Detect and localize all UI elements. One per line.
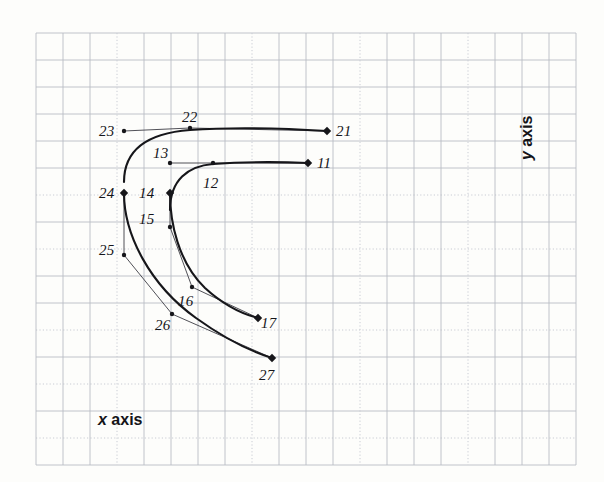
control-point-marker-diamond xyxy=(323,127,331,135)
control-point-label-21: 21 xyxy=(336,124,351,139)
x-axis-label-variable: x xyxy=(98,411,107,428)
spline-figure: 2322211312112414152516261727 x axis y ax… xyxy=(0,0,604,482)
control-point-label-23: 23 xyxy=(99,124,114,139)
x-axis-label-suffix: axis xyxy=(107,411,143,428)
control-point-marker-dot xyxy=(168,161,172,165)
control-point-label-14: 14 xyxy=(139,186,154,201)
control-point-label-17: 17 xyxy=(261,316,276,331)
control-point-marker-dot xyxy=(168,225,172,229)
control-point-label-15: 15 xyxy=(139,212,154,227)
spline-curve xyxy=(170,162,308,210)
grid-layer xyxy=(36,33,576,465)
control-point-marker-dot xyxy=(122,253,126,257)
y-axis-label-suffix: axis xyxy=(518,116,535,152)
control-point-marker-dot xyxy=(170,312,174,316)
control-point-label-22: 22 xyxy=(182,110,197,125)
control-point-label-13: 13 xyxy=(153,146,168,161)
x-axis-label: x axis xyxy=(98,412,143,428)
control-point-marker-diamond xyxy=(304,159,312,167)
control-point-marker-diamond xyxy=(268,354,276,362)
control-point-marker-dot xyxy=(188,126,192,130)
control-point-marker-dot xyxy=(211,161,215,165)
control-point-marker-dot xyxy=(190,285,194,289)
control-point-marker-dot xyxy=(122,129,126,133)
control-point-label-27: 27 xyxy=(259,368,274,383)
control-point-label-11: 11 xyxy=(317,156,331,171)
control-point-marker-layer xyxy=(120,126,331,362)
control-point-label-26: 26 xyxy=(155,318,170,333)
control-point-label-24: 24 xyxy=(99,186,114,201)
control-point-marker-diamond xyxy=(120,189,128,197)
control-point-label-16: 16 xyxy=(178,294,193,309)
plot-canvas xyxy=(0,0,604,482)
y-axis-label-variable: y xyxy=(518,151,535,160)
control-point-label-12: 12 xyxy=(203,176,218,191)
y-axis-label: y axis xyxy=(519,116,535,161)
control-point-label-25: 25 xyxy=(99,243,114,258)
